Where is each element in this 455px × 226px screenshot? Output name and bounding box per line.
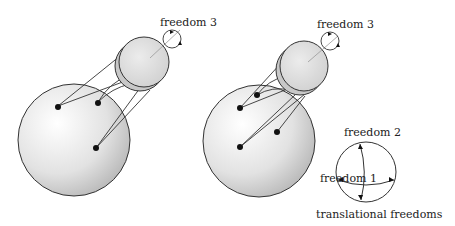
left-freedom-3-label: freedom 3 <box>160 16 217 29</box>
right-joint-figure: freedom 3 <box>203 18 374 197</box>
left-attach-dot-1 <box>55 104 61 110</box>
left-rotation-arrow-icon <box>163 30 182 48</box>
translational-freedoms-figure: freedom 2 freedom 1 translational freedo… <box>316 126 443 221</box>
left-disk <box>115 30 180 91</box>
left-joint-figure: freedom 3 <box>18 16 217 196</box>
translational-freedoms-label: translational freedoms <box>316 208 443 221</box>
right-freedom-3-label: freedom 3 <box>317 18 374 31</box>
freedom-2-label: freedom 2 <box>344 126 401 139</box>
right-attach-dot-2 <box>254 92 260 98</box>
left-attach-dot-2 <box>95 100 101 106</box>
left-large-sphere <box>18 84 130 196</box>
diagram-canvas: freedom 3 freedom 3 <box>0 0 455 226</box>
freedom-1-label: freedom 1 <box>320 172 377 185</box>
right-attach-dot-1 <box>237 105 243 111</box>
right-large-sphere <box>203 85 315 197</box>
left-attach-dot-3 <box>93 145 99 151</box>
right-disk <box>276 36 338 95</box>
right-attach-dot-4 <box>274 129 280 135</box>
right-rotation-arrow-icon <box>321 32 340 50</box>
right-attach-dot-3 <box>237 144 243 150</box>
